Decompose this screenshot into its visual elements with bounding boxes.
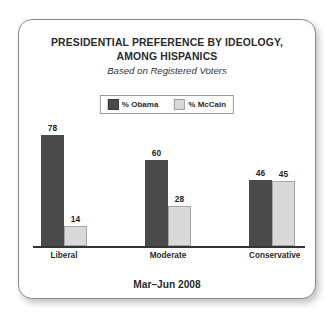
bar-moderate-obama [145,160,168,246]
bar-group-conservative: 46 45 [249,124,295,246]
x-tick-label-moderate: Moderate [145,251,191,260]
bar-liberal-obama [41,135,64,246]
bar-groups: 78 14 60 28 [41,124,295,246]
x-tick-label-conservative: Conservative [249,251,295,260]
screenshot-root: PRESIDENTIAL PREFERENCE BY IDEOLOGY, AMO… [0,0,334,322]
chart-footer-period: Mar–Jun 2008 [19,279,315,290]
light-square-icon [174,99,185,110]
x-axis-line [33,246,305,248]
legend-label-mccain: % McCain [188,100,226,109]
bar-value-moderate-obama: 60 [152,149,161,158]
legend-item-mccain: % McCain [174,99,226,110]
bar-value-conservative-obama: 46 [256,169,265,178]
page-title-line-2: AMONG HISPANICS [19,50,315,64]
plot-area: 78 14 60 28 [41,124,295,246]
chart-card: PRESIDENTIAL PREFERENCE BY IDEOLOGY, AMO… [18,19,316,299]
bar-value-moderate-mccain: 28 [175,195,184,204]
bar-conservative-mccain [272,181,295,246]
bar-conservative-obama [249,180,272,246]
bar-wrap-moderate-mccain: 28 [168,124,191,246]
bar-value-liberal-mccain: 14 [71,215,80,224]
bar-wrap-liberal-obama: 78 [41,124,64,246]
bar-group-moderate: 60 28 [145,124,191,246]
bar-wrap-conservative-obama: 46 [249,124,272,246]
bar-wrap-moderate-obama: 60 [145,124,168,246]
bar-moderate-mccain [168,206,191,246]
bar-wrap-conservative-mccain: 45 [272,124,295,246]
bar-value-liberal-obama: 78 [48,124,57,133]
bar-liberal-mccain [64,226,87,246]
chart-title-block: PRESIDENTIAL PREFERENCE BY IDEOLOGY, AMO… [19,36,315,78]
bar-group-liberal: 78 14 [41,124,87,246]
bar-wrap-liberal-mccain: 14 [64,124,87,246]
bar-value-conservative-mccain: 45 [279,170,288,179]
legend-label-obama: % Obama [122,100,158,109]
x-tick-label-liberal: Liberal [41,251,87,260]
dark-square-icon [108,99,119,110]
chart-legend: % Obama % McCain [100,95,234,114]
legend-item-obama: % Obama [108,99,158,110]
page-title-line-1: PRESIDENTIAL PREFERENCE BY IDEOLOGY, [19,36,315,50]
chart-subtitle: Based on Registered Voters [19,64,315,78]
x-axis-tick-labels: Liberal Moderate Conservative [41,251,295,260]
